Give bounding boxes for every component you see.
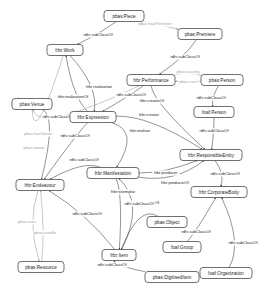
graph-node-person_foaf[interactable]: foaf:Person: [194, 107, 234, 118]
edge-label: rdfs:subClassOf: [181, 229, 211, 234]
edge-label: rdfs:subClassOf: [116, 92, 146, 97]
graph-node-item[interactable]: frbr:Item: [102, 250, 136, 261]
graph-edge: [32, 56, 63, 121]
edge-label: pbas:venue: [23, 145, 45, 150]
node-label: frbr:Expression: [77, 115, 109, 120]
edge-label: frbr:realization: [86, 84, 113, 89]
graph-node-resource[interactable]: pbas:Resource: [18, 262, 64, 273]
graph-node-venue[interactable]: pbas:Venue: [12, 99, 52, 110]
graph-node-object[interactable]: pbas:Object: [147, 217, 187, 228]
graph-node-performance[interactable]: frbr:Performance: [127, 75, 175, 86]
node-label: pbas:Premiere: [185, 32, 216, 37]
graph-node-premiere[interactable]: pbas:Premiere: [178, 29, 222, 40]
node-label: frbr:CorporateBody: [199, 190, 240, 195]
node-label: pbas:Person: [209, 78, 236, 83]
graph-node-organization[interactable]: foaf:Organization: [200, 268, 252, 279]
node-label: frbr:ResponsibleEntity: [188, 153, 235, 158]
node-label: pbas:Object: [154, 220, 180, 225]
edge-label: rdfs:subClassOf: [42, 114, 72, 119]
edge-label: rdfs:subClassOf: [124, 201, 154, 206]
node-label: frbr:Work: [55, 48, 75, 53]
edge-label: rdfs:subClassOf: [69, 157, 99, 162]
graph-node-responsibleentity[interactable]: frbr:ResponsibleEntity: [180, 150, 242, 161]
node-label: frbr:Manifestation: [95, 171, 132, 176]
graph-edge: [41, 191, 44, 262]
graph-edge: [222, 198, 235, 268]
graph-node-work[interactable]: frbr:Work: [47, 45, 83, 56]
edge-label: rdfs:subClassOf: [196, 95, 226, 100]
node-label: foaf:Organization: [208, 271, 244, 276]
edge-label: frbr:realizationOf: [58, 94, 89, 99]
graph-node-endeavour[interactable]: frbr:Endeavour: [16, 180, 64, 191]
edge-label: rdfs:subClassOf: [199, 128, 229, 133]
graph-edge: [187, 198, 216, 242]
edge-label: frbr:producer: [154, 170, 178, 175]
edge-label: frbr:exemplar: [111, 189, 136, 194]
edge-label: pbas:hasVenue: [24, 131, 53, 136]
node-label: frbr:Endeavour: [24, 183, 56, 188]
graph-node-manifestation[interactable]: frbr:Manifestation: [87, 168, 139, 179]
node-label: pbas:Piece: [112, 14, 136, 19]
ontology-graph: rdfs:subClassOfpbas:hasPremiererdfs:subC…: [0, 0, 258, 298]
edge-label: rdfs:subClassOf: [228, 240, 258, 245]
graph-node-person_pbas[interactable]: pbas:Person: [201, 75, 243, 86]
graph-node-expression[interactable]: frbr:Expression: [70, 112, 116, 123]
graph-edge: [33, 191, 39, 262]
edge-label: frbr:producerOf: [161, 180, 190, 185]
edge-label: pbas:casting: [177, 69, 201, 74]
graph-node-piece[interactable]: pbas:Piece: [104, 11, 144, 22]
edge-label: rdfs:subClassOf: [72, 211, 102, 216]
graph-node-group[interactable]: foaf:Group: [163, 242, 201, 253]
edge-label: rdfs:subClassOf: [60, 133, 90, 138]
edge-label: rdfs:subClassOf: [210, 171, 240, 176]
edge-label: pbas:cast: [179, 79, 197, 84]
node-label: pbas:DigitisedItem: [153, 275, 192, 280]
graph-edge: [49, 191, 115, 250]
graph-node-digitiseditem[interactable]: pbas:DigitisedItem: [145, 272, 199, 283]
graph-node-corporatebody[interactable]: frbr:CorporateBody: [191, 187, 247, 198]
node-label: foaf:Person: [202, 110, 226, 115]
edge-label: frbr:realiser: [130, 128, 151, 133]
node-label: pbas:Venue: [20, 102, 45, 107]
edge-label-layer: rdfs:subClassOfpbas:hasPremiererdfs:subC…: [18, 21, 258, 268]
edge-label: rdfs:subClassOf: [83, 32, 113, 37]
graph-edge: [111, 123, 127, 168]
edge-label: frbr:creator: [139, 112, 160, 117]
node-label: frbr:Item: [110, 253, 128, 258]
node-label: foaf:Group: [171, 245, 194, 250]
graph-edge: [66, 56, 88, 112]
edge-label: pbas:uses: [18, 219, 37, 224]
edge-label: rdfs:subClassOf: [97, 262, 127, 267]
edge-label: rdfs:subClassOf: [170, 54, 200, 59]
node-label: pbas:Resource: [25, 265, 57, 270]
edge-label: pbas:usedIn: [34, 230, 57, 235]
node-label: frbr:Performance: [133, 78, 169, 83]
edge-label: frbr:creatorOf: [140, 98, 165, 103]
edge-label: pbas:hasPremiere: [138, 21, 172, 26]
